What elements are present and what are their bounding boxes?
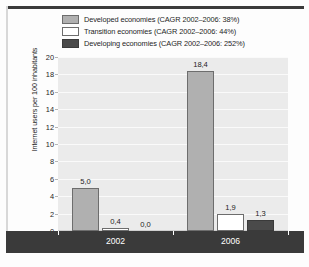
y-tick-mark <box>55 57 58 58</box>
legend-swatch-developed-icon <box>62 15 79 24</box>
legend-item-developing: Developing economies (CAGR 2002–2006: 25… <box>62 38 284 49</box>
gridline <box>58 179 288 180</box>
y-tick-mark <box>55 92 58 93</box>
x-axis-band: 20022006 <box>6 231 304 253</box>
x-tick-label: 2002 <box>106 236 125 246</box>
legend-swatch-developing-icon <box>62 39 79 48</box>
plot-area: 024681012141618205,00,40,018,41,91,3 <box>58 57 288 231</box>
y-tick-label: 20 <box>46 53 54 62</box>
y-tick-mark <box>55 214 58 215</box>
legend-label-developed: Developed economies (CAGR 2002–2006: 38%… <box>84 15 239 24</box>
bar-value-label: 1,9 <box>225 203 235 212</box>
top-divider <box>6 6 304 9</box>
legend-item-transition: Transition economies (CAGR 2002–2006: 44… <box>62 26 284 37</box>
bar-developed-economies-2002 <box>72 188 99 232</box>
y-tick-mark <box>55 127 58 128</box>
chart-figure: Developed economies (CAGR 2002–2006: 38%… <box>0 0 309 267</box>
gridline <box>58 57 288 58</box>
y-tick-mark <box>55 144 58 145</box>
bar-developed-economies-2006 <box>187 71 214 231</box>
bar-value-label: 5,0 <box>80 177 90 186</box>
gridline <box>58 92 288 93</box>
left-divider <box>6 6 8 242</box>
bar-value-label: 1,3 <box>255 209 265 218</box>
y-tick-label: 6 <box>50 174 54 183</box>
y-axis-title: Internet users per 100 inhabitants <box>30 25 39 175</box>
legend-label-developing: Developing economies (CAGR 2002–2006: 25… <box>84 39 245 48</box>
y-tick-mark <box>55 179 58 180</box>
y-tick-label: 14 <box>46 105 54 114</box>
y-tick-label: 12 <box>46 122 54 131</box>
bar-value-label: 18,4 <box>193 60 207 69</box>
y-tick-mark <box>55 196 58 197</box>
y-tick-mark <box>55 161 58 162</box>
bar-developing-economies-2006 <box>247 220 274 231</box>
gridline <box>58 161 288 162</box>
y-tick-label: 16 <box>46 87 54 96</box>
legend-label-transition: Transition economies (CAGR 2002–2006: 44… <box>84 27 236 36</box>
chart-legend: Developed economies (CAGR 2002–2006: 38%… <box>62 14 284 50</box>
gridline <box>58 127 288 128</box>
y-tick-mark <box>55 109 58 110</box>
y-tick-label: 4 <box>50 192 54 201</box>
y-tick-label: 10 <box>46 140 54 149</box>
gridline <box>58 144 288 145</box>
bar-value-label: 0,0 <box>140 220 150 229</box>
x-tick-mark <box>173 231 174 235</box>
x-tick-mark <box>288 231 289 235</box>
legend-item-developed: Developed economies (CAGR 2002–2006: 38%… <box>62 14 284 25</box>
x-tick-label: 2006 <box>221 236 240 246</box>
y-tick-label: 18 <box>46 70 54 79</box>
gridline <box>58 109 288 110</box>
bar-value-label: 0,4 <box>110 217 120 226</box>
y-tick-mark <box>55 74 58 75</box>
y-tick-label: 8 <box>50 157 54 166</box>
gridline <box>58 74 288 75</box>
legend-swatch-transition-icon <box>62 27 79 36</box>
bar-transition-economies-2006 <box>217 214 244 231</box>
x-tick-mark <box>58 231 59 235</box>
y-tick-label: 2 <box>50 209 54 218</box>
